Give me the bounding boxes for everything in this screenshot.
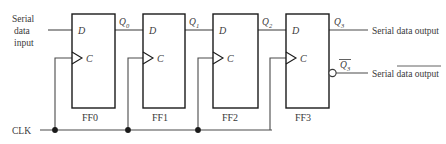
signal-label-q2: Q <box>262 17 269 27</box>
junction-dot-clk-ff1 <box>125 127 131 133</box>
flipflop-name-ff0: FF0 <box>82 112 98 123</box>
wire-clk-branch-ff0 <box>55 58 72 130</box>
pin-label-c-ff1: C <box>157 53 164 64</box>
signal-sub-q1: 1 <box>196 22 199 29</box>
signal-label-q3: Q <box>334 17 341 27</box>
serial-input-label-line1: Serial <box>12 14 35 24</box>
signal-sub-q3: 3 <box>340 22 345 29</box>
serial-input-label-line3: input <box>14 38 34 48</box>
junction-dot-clk-ff2 <box>195 127 201 133</box>
wire-clk-branch-ff1 <box>128 58 143 130</box>
pin-label-d-ff3: D <box>291 25 300 36</box>
flipflop-name-ff3: FF3 <box>295 112 311 123</box>
pin-label-c-ff0: C <box>86 53 93 64</box>
flipflop-name-ff2: FF2 <box>222 112 238 123</box>
signal-sub-q3bar: 3 <box>346 65 351 72</box>
signal-sub-q0: 0 <box>126 22 130 29</box>
serial-input-label-line2: data <box>14 26 31 36</box>
pin-label-d-ff0: D <box>77 25 86 36</box>
serial-output-label: Serial data output <box>372 26 439 36</box>
signal-label-q0: Q <box>119 17 126 27</box>
wire-clk-branch-ff3 <box>270 58 286 130</box>
clk-label: CLK <box>12 126 31 136</box>
shift-register-diagram: D C FF0 D C FF1 D C FF2 D C FF3 Q 0 Q 1 … <box>0 0 446 144</box>
signal-label-q3bar: Q <box>340 60 347 70</box>
pin-label-c-ff2: C <box>227 53 234 64</box>
pin-label-d-ff2: D <box>218 25 227 36</box>
wire-clk-branch-ff2 <box>198 58 213 130</box>
signal-sub-q2: 2 <box>269 22 273 29</box>
flipflop-name-ff1: FF1 <box>152 112 168 123</box>
pin-label-d-ff1: D <box>148 25 157 36</box>
pin-label-c-ff3: C <box>300 53 307 64</box>
junction-dot-clk-ff0 <box>52 127 58 133</box>
inversion-bubble-q3bar <box>329 69 336 76</box>
signal-label-q1: Q <box>189 17 196 27</box>
serial-output-bar-label: Serial data output <box>372 69 439 79</box>
